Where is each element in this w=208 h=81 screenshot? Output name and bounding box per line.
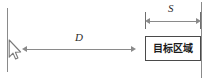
arrow-shaft [149,21,197,22]
target-region-box[interactable]: 目标区域 [145,36,201,61]
target-acquisition-diagram: S D 目标区域 [0,0,208,81]
distance-dimension-label: D [75,32,83,43]
distance-dimension-arrow [22,45,136,54]
size-dimension-arrow [145,17,201,26]
right-boundary-line [201,2,202,78]
arrowhead-right-icon [131,46,136,52]
mouse-pointer-icon [8,39,22,61]
arrowhead-right-icon [196,18,201,24]
arrow-shaft [26,49,132,50]
target-region-label: 目标区域 [153,44,193,54]
size-dimension-label: S [168,3,174,14]
